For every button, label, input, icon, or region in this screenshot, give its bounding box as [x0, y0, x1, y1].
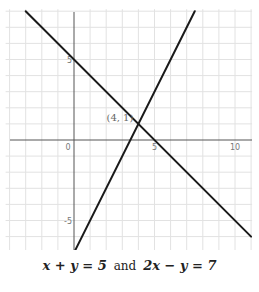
y-tick-label: -5	[64, 217, 72, 226]
x-tick-label: 0	[65, 143, 70, 152]
axes	[10, 12, 252, 250]
equation-2: 2x − y = 7	[143, 258, 216, 273]
annotations: (4, 1)	[107, 112, 134, 123]
x-tick-label: 10	[230, 143, 240, 152]
grid-lines	[6, 9, 253, 250]
intersection-label: (4, 1)	[107, 112, 134, 123]
line-series-2	[74, 11, 195, 250]
equation-1: x + y = 5	[42, 258, 106, 273]
caption: x + y = 5and2x − y = 7	[0, 258, 259, 273]
graph-plot: 05105-5 (4, 1)	[0, 0, 259, 250]
caption-joiner: and	[114, 259, 137, 273]
x-tick-label: 5	[152, 143, 157, 152]
